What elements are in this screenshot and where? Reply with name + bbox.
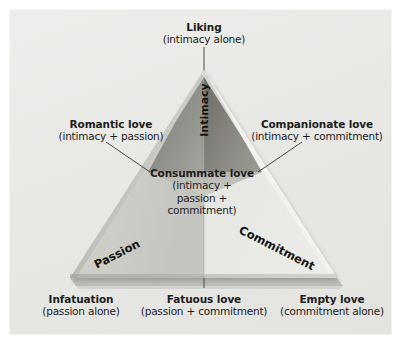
edge-fatuous-subtitle: (passion + commitment) — [141, 305, 267, 317]
leader-companionate — [258, 142, 302, 172]
edge-label-companionate-love: Companionate love (intimacy + commitment… — [251, 118, 382, 143]
center-consummate-line2: passion + — [150, 192, 254, 204]
vertex-infatuation-title: Infatuation — [42, 293, 119, 305]
center-label-consummate-love: Consummate love (intimacy + passion + co… — [150, 167, 254, 217]
edge-companionate-title: Companionate love — [251, 118, 382, 130]
center-consummate-title: Consummate love — [150, 167, 254, 179]
pyramid-shadow — [70, 278, 343, 289]
vertex-label-empty-love: Empty love (commitment alone) — [280, 293, 384, 318]
vertex-infatuation-subtitle: (passion alone) — [42, 305, 119, 317]
edge-romantic-title: Romantic love — [59, 118, 164, 130]
edge-companionate-subtitle: (intimacy + commitment) — [251, 130, 382, 142]
vertex-label-infatuation: Infatuation (passion alone) — [42, 293, 119, 318]
triangular-theory-of-love-figure: Liking (intimacy alone) Romantic love (i… — [0, 0, 409, 344]
edge-label-romantic-love: Romantic love (intimacy + passion) — [59, 118, 164, 143]
side-label-intimacy: Intimacy — [198, 83, 211, 137]
vertex-empty-title: Empty love — [280, 293, 384, 305]
vertex-empty-subtitle: (commitment alone) — [280, 305, 384, 317]
center-consummate-line1: (intimacy + — [150, 179, 254, 191]
edge-romantic-subtitle: (intimacy + passion) — [59, 130, 164, 142]
edge-fatuous-title: Fatuous love — [141, 293, 267, 305]
edge-label-fatuous-love: Fatuous love (passion + commitment) — [141, 293, 267, 318]
base-rim — [70, 274, 337, 278]
vertex-liking-subtitle: (intimacy alone) — [163, 33, 245, 45]
leader-romantic — [106, 142, 150, 172]
vertex-label-liking: Liking (intimacy alone) — [163, 21, 245, 46]
vertex-liking-title: Liking — [163, 21, 245, 33]
center-consummate-line3: commitment) — [150, 204, 254, 216]
